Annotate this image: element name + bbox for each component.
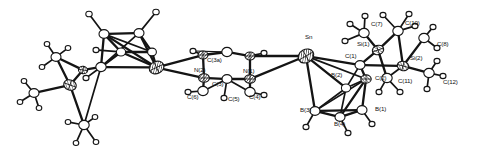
atom-label-B1: B(1) bbox=[375, 105, 386, 112]
atom-label-C11: C(11) bbox=[398, 77, 412, 84]
bond-C8-Hs8 bbox=[427, 41, 435, 47]
atom-Ha1 bbox=[44, 42, 50, 47]
atom-Cp1 bbox=[99, 30, 109, 39]
atom-Hs3 bbox=[342, 38, 348, 43]
atom-Hs2 bbox=[362, 13, 368, 18]
bond-Cc-Hc4 bbox=[86, 128, 94, 140]
atom-B3 bbox=[310, 107, 320, 116]
atom-label-C2: C(2) bbox=[375, 74, 387, 81]
bond-C12-Hs11 bbox=[431, 63, 435, 70]
atom-Hr1 bbox=[190, 48, 196, 53]
bond-C1-C2 bbox=[362, 69, 365, 75]
bond-Si0-Cb bbox=[38, 86, 65, 92]
atom-Cb bbox=[29, 89, 39, 98]
atom-Hs11 bbox=[434, 58, 440, 63]
atom-label-B3: B(3) bbox=[300, 106, 311, 113]
bond-Si1-C10 bbox=[381, 34, 395, 47]
atom-B2 bbox=[341, 84, 350, 92]
bond-Cp1-H1 bbox=[91, 16, 102, 31]
bond-C10-Hs4 bbox=[385, 17, 396, 28]
bond-C7-Hs1 bbox=[352, 25, 360, 30]
bond-Sn-B3 bbox=[307, 62, 314, 107]
atom-label-C6: C(6) bbox=[187, 93, 199, 100]
atom-Hb1 bbox=[21, 79, 27, 84]
atom-Hb3 bbox=[36, 106, 42, 111]
atom-Fe1 bbox=[147, 59, 166, 76]
bond-Cb-Hb2 bbox=[22, 95, 31, 101]
bond-C1-Si2 bbox=[364, 65, 398, 66]
bond-Ca-Ha2 bbox=[59, 49, 66, 54]
atom-Hr5 bbox=[221, 95, 227, 100]
atom-Hb4 bbox=[303, 124, 309, 129]
atom-Hc1 bbox=[65, 120, 71, 125]
atom-Hs7 bbox=[430, 24, 436, 29]
atom-H1 bbox=[86, 11, 92, 17]
atom-Hb6 bbox=[369, 121, 375, 126]
atom-Hs10 bbox=[397, 89, 403, 94]
bond-Cp4-H3 bbox=[98, 50, 117, 52]
atom-label-C5: C(5) bbox=[228, 95, 240, 102]
bond-Si0-Ca bbox=[58, 61, 68, 81]
atom-Cp2 bbox=[134, 29, 144, 38]
atom-Ha2 bbox=[65, 46, 71, 51]
molecular-structure-canvas: SnN(1)N(2)C(3a)C(3)C(4)C(5)C(6)C(1)C(2)B… bbox=[0, 0, 483, 159]
bond-Si0b-Ca bbox=[60, 59, 80, 69]
bond-B1-Hb6 bbox=[364, 113, 370, 122]
atom-Hr4 bbox=[261, 92, 267, 97]
bond-C11-Hs9 bbox=[380, 82, 385, 90]
bond-Si2-C10 bbox=[399, 35, 403, 61]
bond-Cc-Hc3 bbox=[77, 129, 82, 141]
atom-label-Si1: Si(1) bbox=[357, 40, 369, 47]
atom-label-C4: C(4) bbox=[249, 93, 261, 100]
atom-label-C8: C(8) bbox=[437, 40, 449, 47]
bond-Ca-Ha3 bbox=[44, 59, 53, 65]
atom-Ct2 bbox=[245, 52, 255, 60]
bond-Fe1-C3a bbox=[162, 56, 199, 66]
bond-Cp2-H2 bbox=[142, 14, 155, 30]
atom-label-Si2: Si(2) bbox=[410, 54, 422, 61]
bond-Cp5-H4 bbox=[88, 69, 98, 76]
atom-N1 bbox=[245, 75, 256, 84]
atom-Hb2 bbox=[17, 100, 23, 105]
bond-C7-Hs2 bbox=[364, 18, 365, 28]
ortep-figure: SnN(1)N(2)C(3a)C(3)C(4)C(5)C(6)C(1)C(2)B… bbox=[0, 0, 483, 159]
atom-Cp3 bbox=[148, 48, 157, 56]
atom-Cc bbox=[79, 120, 89, 129]
atom-Ca bbox=[51, 53, 61, 62]
atom-Hs5 bbox=[406, 11, 412, 16]
bond-C3-Hr5 bbox=[224, 83, 226, 96]
atom-C3 bbox=[222, 75, 232, 84]
atom-Hr2 bbox=[261, 50, 267, 55]
atom-Hs4 bbox=[380, 12, 386, 17]
atom-label-C10: C(10) bbox=[405, 19, 420, 26]
atom-C8 bbox=[419, 33, 429, 42]
atom-label-B4: B(4) bbox=[334, 120, 345, 127]
bond-Ca-Ha1 bbox=[48, 46, 53, 54]
atom-C12 bbox=[424, 68, 434, 77]
atom-C7 bbox=[359, 28, 369, 37]
atom-B1 bbox=[357, 106, 367, 115]
atom-H4 bbox=[83, 75, 89, 80]
bond-B3-Hb4 bbox=[307, 114, 313, 124]
bond-Cp1-Cp2 bbox=[108, 33, 135, 34]
atom-Hs13 bbox=[424, 86, 430, 91]
atom-Hc4 bbox=[93, 140, 99, 145]
bond-Si0b-Si0 bbox=[73, 73, 80, 81]
bond-B4-B1 bbox=[344, 111, 358, 116]
bond-Si0-Cc bbox=[72, 90, 83, 121]
bond-C1-Si1 bbox=[363, 53, 374, 62]
bond-Ct1-Ct2 bbox=[231, 53, 246, 56]
atom-C6 bbox=[198, 86, 208, 95]
atom-C2 bbox=[361, 75, 371, 83]
atom-Hc2 bbox=[92, 115, 98, 120]
atom-label-C7: C(7) bbox=[371, 20, 383, 27]
atom-Ct1 bbox=[222, 47, 232, 56]
atom-label-N1: N(1) bbox=[243, 67, 255, 74]
atom-Cp4 bbox=[116, 48, 125, 56]
bond-Cb-Hb1 bbox=[25, 83, 31, 90]
atom-label-Sn: Sn bbox=[305, 33, 313, 40]
atom-label-C3a: C(3a) bbox=[207, 56, 222, 63]
atom-label-C3: C(3) bbox=[212, 80, 224, 87]
bond-Si2-C11 bbox=[390, 69, 399, 76]
atom-Hs1 bbox=[347, 21, 353, 26]
